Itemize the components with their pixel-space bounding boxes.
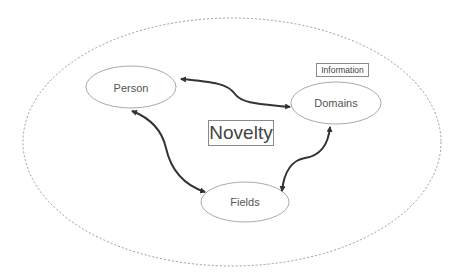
edge-fields-domains: [282, 127, 330, 191]
novelty-title-box: Novelty: [208, 120, 274, 146]
domains-node-label: Domains: [314, 97, 357, 109]
edge-person-domains: [181, 79, 290, 107]
fields-node-label: Fields: [230, 196, 259, 208]
edge-person-fields: [132, 111, 205, 192]
person-node-label: Person: [114, 82, 149, 94]
information-annotation-box: Information: [316, 63, 369, 77]
